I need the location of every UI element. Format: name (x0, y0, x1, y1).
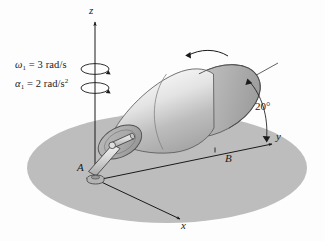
bearing-collar-icon (87, 175, 104, 184)
omega-annotation: ω1 = 3 rad/s (15, 60, 67, 71)
alpha-exponent: 2 (65, 77, 69, 85)
omega-value: = 3 rad/s (26, 59, 66, 70)
y-axis-label: y (276, 131, 281, 142)
physics-diagram-figure: z y x A B 20° ω1 = 3 rad/s α1 = 2 rad/s2 (0, 0, 325, 241)
cone-spin-arrow-icon (185, 50, 228, 58)
figure-canvas (0, 0, 325, 241)
point-b-label: B (225, 153, 232, 164)
x-axis-label: x (181, 220, 186, 231)
angle-20-degrees-label: 20° (255, 101, 270, 112)
point-a-label: A (77, 162, 84, 173)
alpha-spin-arrow-icon (81, 83, 111, 94)
z-axis-label: z (89, 5, 93, 16)
alpha-subscript: 1 (21, 83, 25, 91)
alpha-annotation: α1 = 2 rad/s2 (15, 79, 68, 90)
omega-symbol: ω (15, 59, 23, 70)
omega-subscript: 1 (23, 64, 27, 72)
alpha-value: = 2 rad/s (24, 78, 64, 89)
omega-spin-arrow-icon (81, 64, 111, 75)
alpha-symbol: α (15, 78, 21, 89)
